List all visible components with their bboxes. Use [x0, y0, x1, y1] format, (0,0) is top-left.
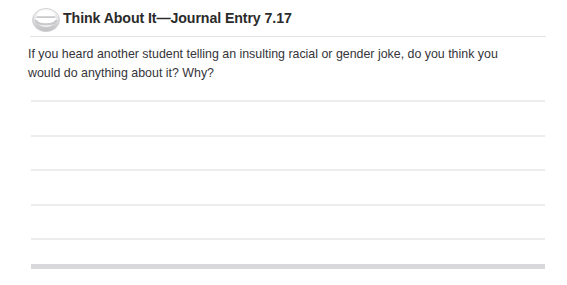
answer-line — [31, 169, 545, 171]
bottom-divider-bar — [31, 264, 545, 269]
journal-entry-page: Think About It—Journal Entry 7.17 If you… — [0, 0, 567, 285]
answer-line — [31, 238, 545, 240]
answer-lines — [0, 0, 567, 285]
answer-line — [31, 204, 545, 206]
answer-line — [31, 100, 545, 102]
answer-line — [31, 135, 545, 137]
